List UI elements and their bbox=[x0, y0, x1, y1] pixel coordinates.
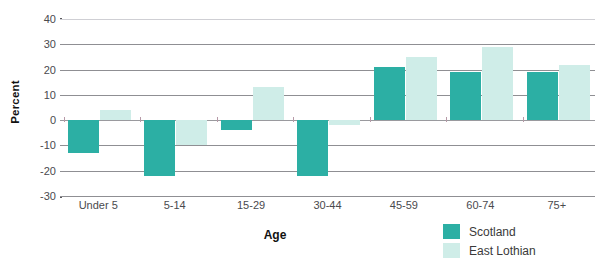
y-tick-label: 20 bbox=[22, 64, 56, 76]
bar-east-lothian bbox=[329, 120, 360, 125]
bar-east-lothian bbox=[253, 87, 284, 120]
zero-axis-tick bbox=[64, 117, 65, 122]
legend-swatch-icon bbox=[443, 243, 460, 258]
zero-axis-tick bbox=[370, 117, 371, 122]
bar-east-lothian bbox=[100, 110, 131, 120]
legend-swatch-icon bbox=[443, 224, 460, 239]
bar-east-lothian bbox=[482, 47, 513, 120]
zero-axis-tick bbox=[140, 117, 141, 122]
bar-group bbox=[442, 19, 518, 196]
bar-chart: Percent 403020100-10-20-30 Under 55-1415… bbox=[0, 0, 605, 264]
legend-item[interactable]: East Lothian bbox=[443, 241, 603, 260]
y-axis-title: Percent bbox=[9, 67, 21, 137]
y-tick-label: 10 bbox=[22, 89, 56, 101]
gridline--30 bbox=[60, 196, 595, 197]
zero-axis-tick bbox=[293, 117, 294, 122]
bar-scotland bbox=[527, 72, 558, 120]
x-tick-labels: Under 55-1415-2930-4445-5960-7475+ bbox=[60, 199, 595, 215]
y-tick-label: -30 bbox=[22, 190, 56, 202]
zero-axis-tick bbox=[217, 117, 218, 122]
x-axis-title: Age bbox=[150, 228, 400, 242]
bar-east-lothian bbox=[406, 57, 437, 120]
zero-axis-tick bbox=[446, 117, 447, 122]
bar-scotland bbox=[297, 120, 328, 176]
bar-scotland bbox=[68, 120, 99, 153]
bar-scotland bbox=[221, 120, 252, 130]
y-tick-label: 30 bbox=[22, 38, 56, 50]
bar-group bbox=[289, 19, 365, 196]
chart-title-cutoff bbox=[300, 0, 500, 7]
chart-legend: ScotlandEast Lothian bbox=[443, 222, 603, 260]
bar-scotland bbox=[450, 72, 481, 120]
bar-east-lothian bbox=[176, 120, 207, 145]
x-tick-label: 75+ bbox=[512, 199, 602, 211]
legend-item[interactable]: Scotland bbox=[443, 222, 603, 241]
bar-group bbox=[366, 19, 442, 196]
legend-label: Scotland bbox=[469, 225, 516, 239]
zero-axis-tick bbox=[523, 117, 524, 122]
y-tick-label: 0 bbox=[22, 114, 56, 126]
bar-group bbox=[60, 19, 136, 196]
legend-label: East Lothian bbox=[469, 244, 536, 258]
bar-scotland bbox=[144, 120, 175, 176]
bar-scotland bbox=[374, 67, 405, 120]
y-tick-label: -20 bbox=[22, 165, 56, 177]
y-tick-label: 40 bbox=[22, 13, 56, 25]
bar-group bbox=[519, 19, 595, 196]
bar-east-lothian bbox=[559, 65, 590, 121]
bar-group bbox=[136, 19, 212, 196]
bar-group bbox=[213, 19, 289, 196]
plot-area: 403020100-10-20-30 bbox=[60, 19, 595, 196]
y-tick-label: -10 bbox=[22, 139, 56, 151]
